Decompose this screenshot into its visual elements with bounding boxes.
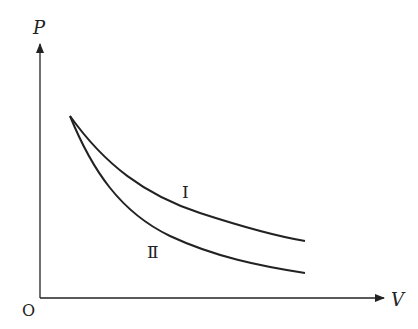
- curve-2-label: Ⅱ: [147, 242, 159, 262]
- curve-1: [70, 116, 305, 241]
- y-axis-label: P: [32, 17, 46, 38]
- pv-diagram: P V O I Ⅱ: [0, 0, 418, 329]
- curve-1-label: I: [182, 182, 189, 202]
- x-axis-label: V: [391, 289, 406, 310]
- origin-label: O: [22, 301, 35, 320]
